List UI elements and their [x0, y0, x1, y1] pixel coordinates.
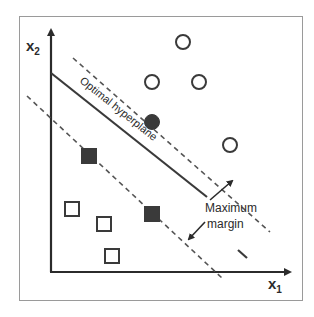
circle-point — [192, 75, 206, 89]
circle-point — [176, 35, 190, 49]
square-point — [97, 217, 111, 231]
support-vector-square — [81, 148, 97, 164]
margin-label-line2: margin — [207, 217, 244, 231]
support-vector-square — [144, 206, 160, 222]
support-vector-circle — [145, 115, 160, 130]
margin-label-line1: Maximum — [205, 201, 257, 215]
svm-diagram: Optimal hyperplane Maximum margin x2 x1 — [0, 0, 314, 317]
square-point — [105, 249, 119, 263]
circle-point — [223, 138, 237, 152]
square-point — [65, 202, 79, 216]
circle-point — [145, 75, 159, 89]
figure-frame — [20, 17, 303, 301]
